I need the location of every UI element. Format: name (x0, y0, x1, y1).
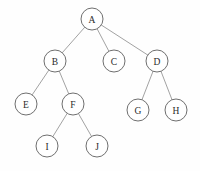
edge-b-e (32, 70, 49, 95)
edge-a-c (97, 29, 109, 52)
edges-layer (32, 25, 172, 137)
node-label-g: G (135, 106, 142, 116)
node-label-f: F (70, 100, 75, 110)
edge-d-g (142, 71, 153, 99)
tree-diagram-canvas: ABCDEFGHIJ (0, 0, 200, 171)
node-b[interactable]: B (44, 50, 66, 72)
node-e[interactable]: E (15, 93, 37, 115)
node-a[interactable]: A (81, 8, 103, 30)
edge-b-f (59, 71, 69, 94)
edge-d-h (161, 71, 172, 99)
node-c[interactable]: C (103, 50, 125, 72)
node-j[interactable]: J (86, 135, 108, 157)
node-g[interactable]: G (127, 99, 149, 121)
node-label-h: H (173, 106, 180, 116)
node-label-a: A (89, 15, 96, 25)
node-label-e: E (23, 100, 29, 110)
edge-f-i (53, 113, 67, 136)
node-label-j: J (95, 142, 99, 152)
edge-a-b (62, 27, 84, 53)
edge-f-j (78, 114, 91, 137)
node-label-b: B (52, 57, 58, 67)
node-label-i: I (45, 142, 48, 152)
node-d[interactable]: D (146, 50, 168, 72)
tree-diagram: ABCDEFGHIJ (0, 0, 200, 171)
node-label-c: C (111, 57, 117, 67)
node-h[interactable]: H (165, 99, 187, 121)
node-label-d: D (154, 57, 161, 67)
node-i[interactable]: I (36, 135, 58, 157)
node-f[interactable]: F (62, 93, 84, 115)
